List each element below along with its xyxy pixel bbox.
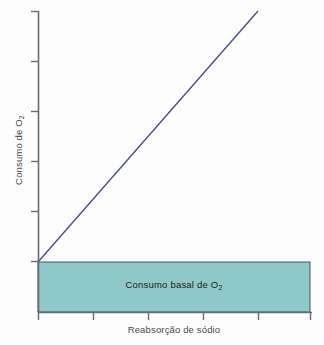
y-axis-label-text: Consumo de O	[13, 119, 24, 185]
y-axis-label-subscript: 2	[18, 115, 25, 119]
x-axis-label: Reabsorção de sódio	[38, 324, 310, 335]
y-axis-label: Consumo de O2	[13, 95, 25, 205]
chart-figure: Consumo de O2 Reabsorção de sódio Consum…	[0, 0, 324, 345]
oxygen-consumption-line	[38, 11, 258, 262]
y-axis-ticks	[31, 12, 38, 262]
basal-band-label: Consumo basal de O2	[38, 279, 310, 291]
basal-band-label-subscript: 2	[218, 284, 222, 291]
chart-plot-area	[0, 0, 324, 345]
basal-band-label-text: Consumo basal de O	[126, 279, 219, 290]
